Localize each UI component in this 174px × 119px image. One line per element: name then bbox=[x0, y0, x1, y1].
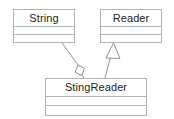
class-attributes-string bbox=[14, 27, 74, 35]
class-attributes-stingreader bbox=[46, 97, 146, 106]
class-name-reader: Reader bbox=[101, 10, 161, 27]
class-box-stingreader[interactable]: StingReader bbox=[45, 78, 147, 116]
generalization-edge-line bbox=[105, 57, 111, 78]
generalization-edge-stingreader-reader[interactable] bbox=[105, 43, 120, 78]
uml-diagram-canvas: String Reader StingReader bbox=[0, 0, 174, 119]
class-name-stingreader: StingReader bbox=[46, 79, 146, 97]
class-operations-reader bbox=[101, 35, 161, 42]
class-operations-string bbox=[14, 35, 74, 42]
class-box-string[interactable]: String bbox=[13, 9, 75, 43]
class-attributes-reader bbox=[101, 27, 161, 35]
hollow-triangle-icon bbox=[106, 43, 120, 59]
aggregation-edge-stingreader-string[interactable] bbox=[62, 43, 85, 78]
class-box-reader[interactable]: Reader bbox=[100, 9, 162, 43]
hollow-diamond-icon bbox=[75, 65, 85, 76]
class-name-string: String bbox=[14, 10, 74, 27]
aggregation-edge-line bbox=[62, 43, 78, 65]
class-operations-stingreader bbox=[46, 106, 146, 115]
